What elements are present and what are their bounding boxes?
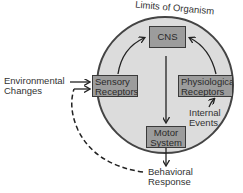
- label-internal-events: Internal Events: [189, 108, 221, 128]
- node-sensory-receptors: Sensory Receptors: [92, 75, 138, 97]
- node-cns-label: CNS: [157, 31, 177, 42]
- node-sensory-line2: Receptors: [95, 87, 135, 97]
- label-behavioral-response: Behavioral Response: [148, 167, 193, 187]
- label-environmental-line2: Changes: [4, 86, 65, 96]
- node-motor-line2: System: [149, 138, 183, 148]
- node-cns: CNS: [149, 26, 186, 48]
- node-motor-system: Motor System: [146, 126, 186, 148]
- label-environmental-changes: Environmental Changes: [4, 76, 65, 96]
- node-physiological-receptors: Physiological Receptors: [178, 75, 233, 97]
- label-internal-line2: Events: [189, 118, 221, 128]
- node-physio-line2: Receptors: [181, 87, 230, 97]
- label-behavioral-line2: Response: [148, 177, 193, 187]
